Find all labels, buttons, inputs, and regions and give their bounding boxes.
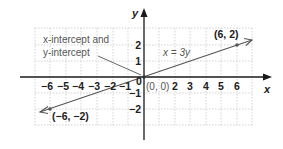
y-axis-label: y: [131, 7, 139, 19]
x-axis-label: x: [263, 83, 271, 95]
x-tick-m2: −2: [104, 80, 116, 92]
x-tick-p2: 2: [172, 80, 178, 92]
origin-zero-label: 0: [136, 75, 142, 87]
x-tick-m5: −5: [57, 80, 69, 92]
y-axis-arrow-icon: [141, 8, 148, 17]
y-tick-p1: 1: [135, 55, 141, 67]
y-tick-p2: 2: [135, 39, 141, 51]
origin-point-label: (0, 0): [146, 81, 169, 92]
point-origin: [142, 75, 146, 79]
intercept-annotation-line1: x-intercept and: [43, 34, 109, 45]
intercept-annotation-line2: y-intercept: [43, 47, 90, 58]
x-tick-p5: 5: [218, 80, 224, 92]
point-6-2: [235, 43, 239, 47]
point-label-neg6-neg2: (−6, −2): [52, 110, 89, 122]
x-tick-m6: −6: [41, 80, 53, 92]
x-tick-p4: 4: [203, 80, 209, 92]
x-axis-arrow-icon: [263, 74, 272, 81]
x-tick-m4: −4: [72, 80, 84, 92]
equation-label: x = 3y: [162, 47, 191, 58]
point-label-6-2: (6, 2): [214, 28, 239, 40]
x-tick-p3: 3: [187, 80, 193, 92]
y-tick-m1: −1: [129, 87, 141, 99]
x-tick-m3: −3: [88, 80, 100, 92]
y-tick-m2: −2: [129, 103, 141, 115]
coordinate-plane-chart: y x −6 −5 −4 −3 −2 −1 2 3 4 5 6 0 2 1 −1…: [0, 0, 283, 149]
x-tick-p6: 6: [234, 80, 240, 92]
